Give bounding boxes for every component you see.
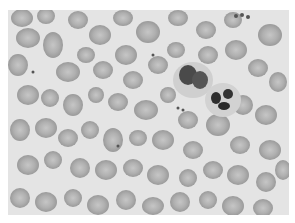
blood-cells-illustration bbox=[8, 10, 289, 215]
white-blood-cell-2 bbox=[205, 83, 241, 117]
blood-smear-image bbox=[8, 10, 289, 215]
